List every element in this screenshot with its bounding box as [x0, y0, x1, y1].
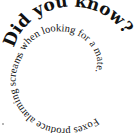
- spiral-text-graphic: Did you know? Foxes produce alarming scr…: [0, 0, 137, 133]
- stray-dot: [2, 123, 4, 125]
